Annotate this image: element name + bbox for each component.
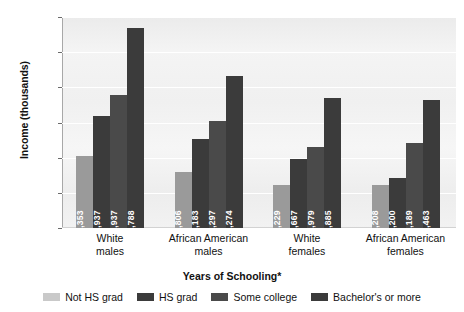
legend-label: Bachelor's or more — [333, 291, 421, 303]
bar: 12,229 — [273, 185, 290, 228]
bar: 56,788 — [127, 28, 144, 228]
plot-area: $0$10$20$30$40$50$6020,35331,93737,93756… — [62, 17, 456, 228]
bar: 14,200 — [389, 178, 406, 228]
bar: 30,297 — [209, 121, 226, 228]
bar: 37,937 — [110, 95, 127, 228]
chart-figure: Income (thousands) $0$10$20$30$40$50$602… — [0, 0, 464, 312]
legend-swatch — [137, 293, 154, 301]
bar-group: 20,35331,93737,93756,788 — [76, 17, 144, 228]
bar: 20,353 — [76, 156, 93, 228]
bar: 24,189 — [406, 143, 423, 228]
bar: 22,979 — [307, 147, 324, 228]
bar: 19,667 — [290, 159, 307, 228]
bar: 31,937 — [93, 116, 110, 228]
legend-swatch — [43, 293, 60, 301]
x-group-label: Whitefemales — [252, 232, 362, 257]
legend-label: HS grad — [159, 291, 198, 303]
legend-item[interactable]: Not HS grad — [43, 291, 123, 303]
y-tick-mark — [58, 193, 62, 194]
legend-item[interactable]: Bachelor's or more — [311, 291, 421, 303]
x-group-label: African Americanfemales — [351, 232, 461, 257]
legend-swatch — [211, 293, 228, 301]
bar: 43,274 — [226, 76, 243, 228]
y-axis-title: Income (thousands) — [18, 20, 30, 200]
legend-item[interactable]: HS grad — [137, 291, 198, 303]
y-tick-mark — [58, 158, 62, 159]
y-tick-mark — [58, 52, 62, 53]
x-group-label: African Americanmales — [154, 232, 264, 257]
bar: 36,463 — [423, 100, 440, 228]
bar-group: 12,22919,66722,97936,885 — [273, 17, 341, 228]
bar: 25,183 — [192, 139, 209, 228]
x-axis-title: Years of Schooling* — [0, 270, 464, 282]
bar: 36,885 — [324, 98, 341, 228]
legend-swatch — [311, 293, 328, 301]
legend-label: Some college — [233, 291, 297, 303]
x-group-label: Whitemales — [55, 232, 165, 257]
chart-legend: Not HS gradHS gradSome collegeBachelor's… — [0, 291, 464, 303]
y-tick-mark — [58, 228, 62, 229]
bar: 15,806 — [175, 172, 192, 228]
y-tick-mark — [58, 87, 62, 88]
bar-group: 15,80625,18330,29743,274 — [175, 17, 243, 228]
legend-item[interactable]: Some college — [211, 291, 297, 303]
bar-group: 12,20814,20024,18936,463 — [372, 17, 440, 228]
bar: 12,208 — [372, 185, 389, 228]
y-tick-mark — [58, 17, 62, 18]
y-tick-mark — [58, 123, 62, 124]
legend-label: Not HS grad — [65, 291, 123, 303]
